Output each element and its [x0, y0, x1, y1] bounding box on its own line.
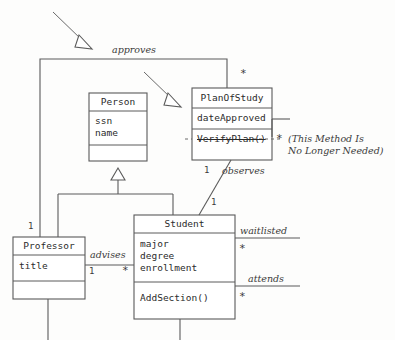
association-label-waitlisted: waitlisted — [240, 226, 287, 236]
class-operation-planofstudy-verifyplan: VerifyPlan() — [197, 134, 266, 144]
association-label-observes: observes — [222, 166, 265, 176]
multiplicity-observes-source: 1 — [204, 166, 209, 175]
annotation-note-line1: (This Method Is — [288, 133, 364, 145]
multiplicity-waitlisted: * — [239, 243, 246, 254]
class-attribute-person-ssn: ssn — [95, 116, 112, 126]
class-attribute-professor-title: title — [19, 261, 48, 271]
class-attribute-planofstudy-dateapproved: dateApproved — [197, 113, 266, 123]
multiplicity-approves-target: * — [240, 68, 247, 79]
class-attribute-person-name: name — [95, 128, 118, 138]
uml-class-diagram-canvas: .ln { stroke: #5a5a5a; stroke-width: 1.1… — [0, 0, 395, 340]
multiplicity-planofstudy-note: * — [276, 133, 283, 144]
class-name-student: Student — [134, 219, 235, 229]
class-attribute-student-major: major — [140, 239, 169, 249]
association-label-advises: advises — [90, 250, 126, 260]
class-attribute-student-degree: degree — [140, 251, 174, 261]
diagram-vector-layer: .ln { stroke: #5a5a5a; stroke-width: 1.1… — [0, 0, 395, 340]
association-label-attends: attends — [248, 274, 284, 284]
class-attribute-student-enrollment: enrollment — [140, 263, 197, 273]
class-operation-student-addsection: AddSection() — [140, 293, 209, 303]
annotation-note-line2: No Longer Needed) — [288, 145, 384, 157]
multiplicity-approves-source: 1 — [28, 222, 33, 231]
callout-arrow-approves — [53, 12, 92, 49]
class-name-professor: Professor — [13, 241, 85, 251]
callout-arrow-planofstudy — [144, 72, 181, 107]
multiplicity-attends: * — [239, 291, 246, 302]
multiplicity-advises-target: * — [122, 265, 129, 276]
multiplicity-advises-source: 1 — [89, 267, 94, 276]
class-name-planofstudy: PlanOfStudy — [192, 93, 272, 103]
multiplicity-observes-target: 1 — [211, 198, 216, 207]
association-label-approves: approves — [112, 45, 156, 55]
class-name-person: Person — [89, 97, 147, 107]
